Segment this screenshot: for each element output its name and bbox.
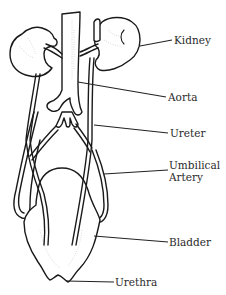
right-renal-vessel (80, 44, 98, 52)
umbilical-artery-leader-line (104, 170, 168, 174)
aorta (47, 12, 82, 127)
ureter-leader-line (94, 125, 168, 133)
urinary-system-diagram: Kidney Aorta Ureter Umbilical Artery Bla… (0, 0, 226, 295)
kidney-label: Kidney (174, 34, 211, 46)
left-kidney (10, 27, 57, 76)
left-iliac-artery-2 (32, 130, 58, 160)
aorta-leader-line (78, 82, 166, 97)
urethra-leader-line (66, 281, 114, 282)
ureter-label: Ureter (170, 127, 207, 139)
right-renal-vessel-2 (80, 48, 98, 56)
urethra-label: Urethra (115, 276, 157, 288)
left-renal-vessel (44, 48, 62, 58)
kidney-leader-line (140, 40, 172, 46)
adrenal-gland (94, 19, 100, 42)
umbilical-artery-label-line2: Artery (168, 171, 203, 183)
right-iliac-artery (76, 124, 92, 148)
bladder-label: Bladder (169, 236, 212, 248)
bladder-leader-line (94, 236, 168, 242)
right-kidney (95, 18, 140, 71)
umbilical-artery-label-line1: Umbilical (169, 159, 221, 171)
bladder-shape (24, 168, 100, 282)
aorta-label: Aorta (167, 91, 197, 103)
